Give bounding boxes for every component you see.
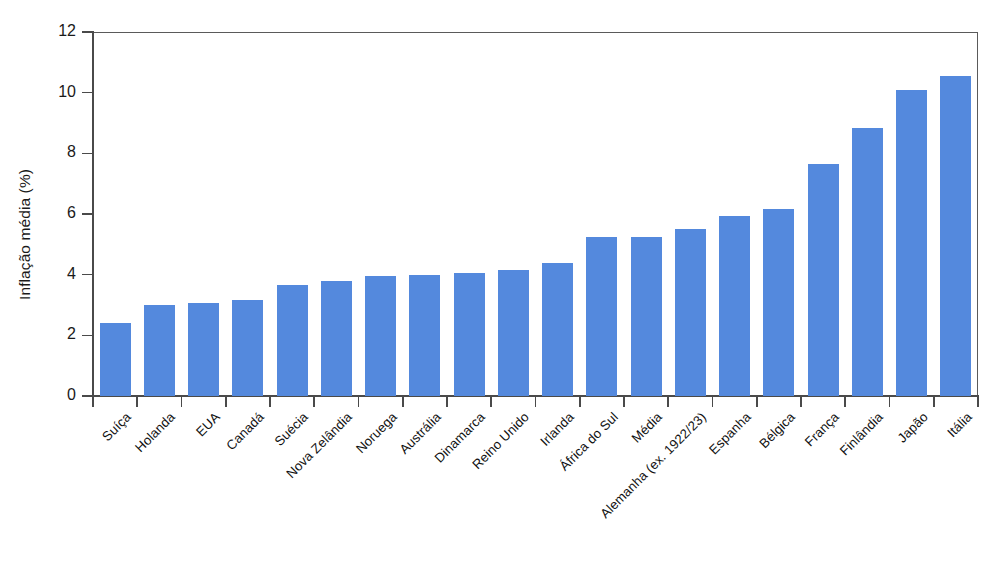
- x-axis-tick: [933, 396, 935, 407]
- bar: [498, 270, 529, 396]
- x-axis-tick: [136, 396, 138, 407]
- bar: [542, 263, 573, 396]
- y-axis-tick-label: 2: [0, 326, 76, 342]
- x-axis-tick: [889, 396, 891, 407]
- y-axis-tick: [82, 153, 93, 155]
- y-axis-tick-label: 6: [0, 205, 76, 221]
- x-axis-tick: [844, 396, 846, 407]
- y-axis-tick-label: 4: [0, 266, 76, 282]
- x-axis-tick: [579, 396, 581, 407]
- bar: [365, 276, 396, 396]
- x-axis-tick: [800, 396, 802, 407]
- y-axis-tick: [82, 335, 93, 337]
- bar: [631, 237, 662, 396]
- bar: [940, 76, 971, 396]
- y-axis-tick-label: 0: [0, 387, 76, 403]
- x-axis-tick: [756, 396, 758, 407]
- y-axis-tick: [82, 92, 93, 94]
- bar: [852, 128, 883, 396]
- y-axis-tick: [82, 274, 93, 276]
- bar: [586, 237, 617, 396]
- x-axis-tick: [92, 396, 94, 407]
- plot-area: [93, 32, 978, 396]
- bar: [100, 323, 131, 396]
- bar: [719, 216, 750, 396]
- x-axis-tick: [313, 396, 315, 407]
- bar: [144, 305, 175, 396]
- x-axis-tick: [402, 396, 404, 407]
- x-axis-tick: [490, 396, 492, 407]
- x-axis-tick: [269, 396, 271, 407]
- bar: [409, 275, 440, 396]
- x-axis-tick: [358, 396, 360, 407]
- x-axis-tick: [667, 396, 669, 407]
- x-axis-tick: [181, 396, 183, 407]
- x-axis-tick: [225, 396, 227, 407]
- bar: [808, 164, 839, 396]
- bar: [454, 273, 485, 396]
- x-axis-tick: [446, 396, 448, 407]
- y-axis-tick: [82, 213, 93, 215]
- y-axis-tick-label: 8: [0, 144, 76, 160]
- x-axis-tick: [712, 396, 714, 407]
- x-axis-tick: [977, 396, 979, 407]
- bar: [188, 303, 219, 396]
- bar: [277, 285, 308, 396]
- bar: [763, 209, 794, 396]
- bar: [675, 229, 706, 396]
- bar: [896, 90, 927, 396]
- inflation-bar-chart: Inflação média (%) 024681012 SuíçaHoland…: [0, 0, 991, 565]
- bar: [232, 300, 263, 396]
- y-axis-tick-label: 12: [0, 23, 76, 39]
- y-axis-tick: [82, 31, 93, 33]
- bar: [321, 281, 352, 396]
- x-axis-tick: [535, 396, 537, 407]
- y-axis-tick-label: 10: [0, 84, 76, 100]
- x-axis-tick: [623, 396, 625, 407]
